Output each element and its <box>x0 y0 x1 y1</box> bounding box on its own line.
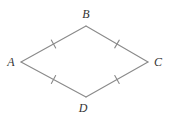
tick-mark-BC <box>115 40 120 48</box>
tick-mark-AB <box>51 40 55 48</box>
tick-mark-CD <box>115 76 119 84</box>
tick-mark-DA <box>51 76 55 84</box>
vertex-label-C: C <box>154 55 163 69</box>
geometry-diagram: ABCD <box>0 0 170 120</box>
quadrilateral-svg: ABCD <box>0 0 170 120</box>
vertex-label-A: A <box>6 55 15 69</box>
vertex-label-B: B <box>82 7 90 21</box>
vertex-label-D: D <box>78 101 88 115</box>
